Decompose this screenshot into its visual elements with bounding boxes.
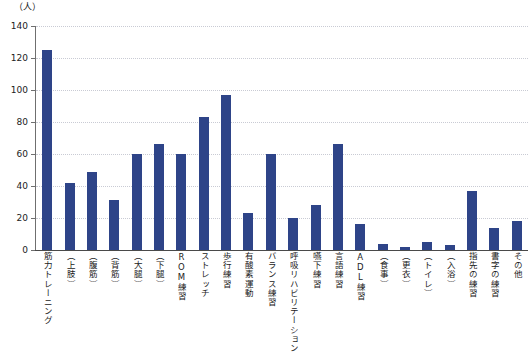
y-axis-tick-label: 100 xyxy=(0,86,28,95)
x-axis-label-slot: 有酸素運動 xyxy=(237,252,259,352)
x-axis-label-slot: （背筋） xyxy=(103,252,125,352)
x-axis-label: （入浴） xyxy=(445,252,455,352)
bar[interactable] xyxy=(378,244,388,250)
x-axis-label-slot: 歩行練習 xyxy=(215,252,237,352)
bar[interactable] xyxy=(311,205,321,250)
bar-slot xyxy=(327,26,349,250)
bar[interactable] xyxy=(176,154,186,250)
x-axis-label: 嚥下練習 xyxy=(311,252,321,352)
bar[interactable] xyxy=(422,242,432,250)
x-axis-label-slot: 筋力トレーニング xyxy=(36,252,58,352)
x-axis-label: （大腿） xyxy=(132,252,142,352)
bar-slot xyxy=(394,26,416,250)
bar-slot xyxy=(439,26,461,250)
bar-slot xyxy=(506,26,528,250)
bar-slot xyxy=(215,26,237,250)
x-axis-label-slot: ADL練習 xyxy=(349,252,371,352)
bar-slot xyxy=(148,26,170,250)
x-axis-label-slot: （更衣） xyxy=(394,252,416,352)
x-axis-label: ROM練習 xyxy=(176,252,186,352)
x-axis-label: バランス練習 xyxy=(266,252,276,352)
x-axis-label-slot: 書字の練習 xyxy=(483,252,505,352)
bar[interactable] xyxy=(65,183,75,250)
bar[interactable] xyxy=(512,221,522,250)
x-axis-label-slot: 呼吸リハビリテーション xyxy=(282,252,304,352)
x-axis-label-slot: （腹筋） xyxy=(81,252,103,352)
x-axis-label: 歩行練習 xyxy=(221,252,231,352)
y-axis-tick-label: 0 xyxy=(0,246,28,255)
bar-slot xyxy=(461,26,483,250)
y-axis-tick-label: 120 xyxy=(0,54,28,63)
x-axis-labels: 筋力トレーニング（上肢）（腹筋）（背筋）（大腿）（下腿）ROM練習ストレッチ歩行… xyxy=(36,252,528,352)
bar-slot xyxy=(416,26,438,250)
x-axis-label: （更衣） xyxy=(400,252,410,352)
bar[interactable] xyxy=(132,154,142,250)
bar-slot xyxy=(483,26,505,250)
bar[interactable] xyxy=(467,191,477,250)
x-axis-label-slot: バランス練習 xyxy=(260,252,282,352)
y-axis-tick-label: 40 xyxy=(0,182,28,191)
x-axis-label-slot: （下腿） xyxy=(148,252,170,352)
bar[interactable] xyxy=(87,172,97,250)
bar-series xyxy=(36,26,528,250)
y-axis-tick-mark xyxy=(31,218,35,219)
bar-chart: （人） 140120100806040200 筋力トレーニング（上肢）（腹筋）（… xyxy=(0,0,532,352)
x-axis-label: （下腿） xyxy=(154,252,164,352)
x-axis-label-slot: （トイレ） xyxy=(416,252,438,352)
y-axis-tick-label: 60 xyxy=(0,150,28,159)
x-axis-label-slot: その他 xyxy=(506,252,528,352)
bar[interactable] xyxy=(42,50,52,250)
x-axis-label: 筋力トレーニング xyxy=(42,252,52,352)
bar[interactable] xyxy=(221,95,231,250)
y-axis-tick-label: 80 xyxy=(0,118,28,127)
bar[interactable] xyxy=(199,117,209,250)
x-axis-label: （トイレ） xyxy=(422,252,432,352)
bar-slot xyxy=(260,26,282,250)
x-axis-label: （食事） xyxy=(378,252,388,352)
y-axis-tick-mark xyxy=(31,186,35,187)
bar-slot xyxy=(81,26,103,250)
x-axis-label-slot: 言語練習 xyxy=(327,252,349,352)
y-axis-tick-mark xyxy=(31,122,35,123)
bar[interactable] xyxy=(355,224,365,250)
x-axis-label-slot: （食事） xyxy=(371,252,393,352)
y-axis-tick-mark xyxy=(31,154,35,155)
x-axis-label: 指先の練習 xyxy=(467,252,477,352)
x-axis-label-slot: （入浴） xyxy=(439,252,461,352)
y-axis-tick-mark xyxy=(31,90,35,91)
bar[interactable] xyxy=(154,144,164,250)
y-axis-tick-label: 20 xyxy=(0,214,28,223)
bar-slot xyxy=(304,26,326,250)
x-axis-label: 書字の練習 xyxy=(489,252,499,352)
x-axis-label: 呼吸リハビリテーション xyxy=(288,252,298,352)
x-axis-label: （腹筋） xyxy=(87,252,97,352)
x-axis-label: ADL練習 xyxy=(355,252,365,352)
bar-slot xyxy=(58,26,80,250)
bar[interactable] xyxy=(266,154,276,250)
bar-slot xyxy=(103,26,125,250)
bar[interactable] xyxy=(400,247,410,250)
y-axis-tick-mark xyxy=(31,58,35,59)
bar-slot xyxy=(237,26,259,250)
x-axis-label-slot: （上肢） xyxy=(58,252,80,352)
x-axis-label: （上肢） xyxy=(65,252,75,352)
x-axis-label-slot: ストレッチ xyxy=(193,252,215,352)
bar[interactable] xyxy=(489,228,499,250)
bar[interactable] xyxy=(333,144,343,250)
bar[interactable] xyxy=(288,218,298,250)
y-axis-unit-label: （人） xyxy=(14,2,41,13)
x-axis-label: 言語練習 xyxy=(333,252,343,352)
bar-slot xyxy=(193,26,215,250)
x-axis-label-slot: 指先の練習 xyxy=(461,252,483,352)
bar[interactable] xyxy=(445,245,455,250)
bar[interactable] xyxy=(109,200,119,250)
x-axis-baseline xyxy=(35,250,528,251)
x-axis-label-slot: 嚥下練習 xyxy=(304,252,326,352)
bar[interactable] xyxy=(243,213,253,250)
bar-slot xyxy=(36,26,58,250)
bar-slot xyxy=(170,26,192,250)
bar-slot xyxy=(349,26,371,250)
x-axis-label: その他 xyxy=(512,252,522,352)
x-axis-label: ストレッチ xyxy=(199,252,209,352)
bar-slot xyxy=(282,26,304,250)
